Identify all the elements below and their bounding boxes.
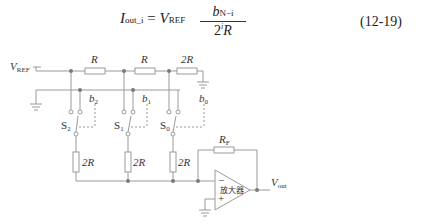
- resistor-rf: [214, 147, 234, 153]
- resistor-2r-s1: [125, 152, 131, 172]
- switch-s1-label: S1: [114, 119, 124, 133]
- resistor-2r-s0: [170, 152, 176, 172]
- resistor-2r-s2-label: 2R: [82, 156, 95, 168]
- feedback-resistor-label: RF: [218, 133, 230, 147]
- bit-b1-label: b1: [142, 92, 152, 106]
- resistor-r2-label: R: [140, 53, 148, 65]
- resistor-r1: [85, 68, 105, 74]
- switch-s2-label: S2: [61, 119, 71, 133]
- resistor-r1-label: R: [90, 53, 98, 65]
- switch-s0-label: S0: [160, 119, 170, 133]
- bit-b0-label: b0: [199, 92, 209, 106]
- vout-label: Vout: [271, 176, 287, 190]
- resistor-r2: [135, 68, 155, 74]
- r-2r-dac-circuit: VREF R R 2R b2 b1 b0 S2 S1 S0 2R 2R 2R R…: [0, 0, 423, 224]
- resistor-2r-top-label: 2R: [181, 53, 194, 65]
- opamp-inverting-input: −: [218, 174, 224, 186]
- resistor-2r-s1-label: 2R: [133, 156, 146, 168]
- resistor-2r-s0-label: 2R: [178, 156, 191, 168]
- resistor-2r-s2: [73, 152, 79, 172]
- opamp-label: 放大器: [220, 185, 244, 195]
- resistor-2r-top: [177, 68, 197, 74]
- vref-label: VREF: [10, 60, 30, 74]
- bit-b2-label: b2: [89, 92, 99, 106]
